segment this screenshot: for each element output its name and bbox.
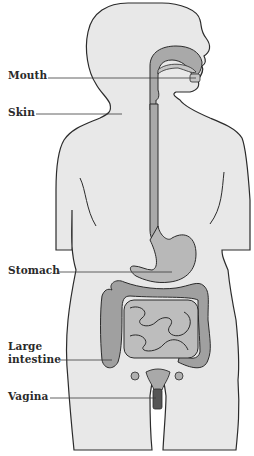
stomach-label: Stomach xyxy=(8,264,60,276)
small-intestine xyxy=(124,300,198,358)
skin-label: Skin xyxy=(8,106,35,118)
left-ovary xyxy=(131,372,139,380)
large-intestine-label-line2: intestine xyxy=(8,353,61,365)
digestive-system-diagram: Mouth Skin Stomach Large intestine Vagin… xyxy=(0,0,254,456)
vagina-label: Vagina xyxy=(8,390,48,402)
large-intestine-label-line1: Large xyxy=(8,340,42,352)
vagina-canal xyxy=(153,389,162,409)
mouth-label: Mouth xyxy=(8,69,47,81)
right-ovary xyxy=(175,372,183,380)
